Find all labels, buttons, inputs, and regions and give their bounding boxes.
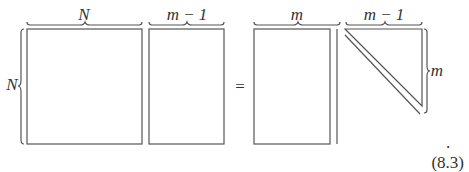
- matrix-c-width-label: m: [291, 5, 303, 24]
- left-brace-a: [18, 29, 24, 144]
- matrix-b-width-label: m − 1: [167, 5, 208, 24]
- trailing-period: .: [446, 133, 450, 152]
- equals-sign: =: [235, 77, 245, 96]
- matrix-a: N N: [5, 5, 142, 144]
- matrix-c-box: [254, 29, 330, 144]
- matrix-a-height-label: N: [5, 75, 19, 94]
- matrix-c: m: [254, 5, 340, 144]
- right-brace-d: [424, 29, 430, 113]
- matrix-d-triangle: [345, 29, 422, 106]
- matrix-d-diagonal: [345, 35, 420, 114]
- matrix-d-height-label: m: [431, 61, 443, 80]
- matrix-a-box: [27, 29, 142, 144]
- matrix-a-width-label: N: [77, 5, 91, 24]
- matrix-b-box: [149, 29, 224, 144]
- equation-diagram: N N m − 1 = m m m − 1 . (8.3): [0, 0, 469, 172]
- matrix-b: m − 1: [149, 5, 224, 144]
- equation-number: (8.3): [431, 153, 464, 172]
- matrix-d: m m − 1: [345, 5, 443, 114]
- matrix-d-width-label: m − 1: [364, 5, 405, 24]
